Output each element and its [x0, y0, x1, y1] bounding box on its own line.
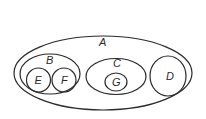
- set-b-label: B: [46, 54, 53, 66]
- set-d-label: D: [166, 70, 174, 82]
- venn-diagram: A B E F C G D: [0, 0, 206, 119]
- set-e-label: E: [35, 74, 43, 86]
- set-a-label: A: [98, 36, 106, 48]
- set-c-label: C: [113, 57, 121, 69]
- set-f-label: F: [61, 74, 69, 86]
- set-g-label: G: [112, 76, 121, 88]
